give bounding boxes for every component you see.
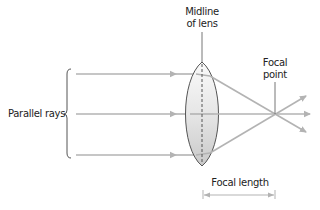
midline-label: Midline of lens — [172, 6, 232, 30]
parallel-rays — [76, 74, 196, 155]
focal-point-label: Focal point — [250, 57, 300, 81]
midline-label-line1: Midline — [172, 6, 232, 18]
focal-point-label-line2: point — [250, 69, 300, 81]
focal-point-label-line1: Focal — [250, 57, 300, 69]
focal-length-dimension — [203, 190, 275, 199]
parallel-rays-label: Parallel rays — [8, 108, 65, 120]
focal-length-label: Focal length — [204, 177, 276, 189]
midline-label-line2: of lens — [172, 18, 232, 30]
